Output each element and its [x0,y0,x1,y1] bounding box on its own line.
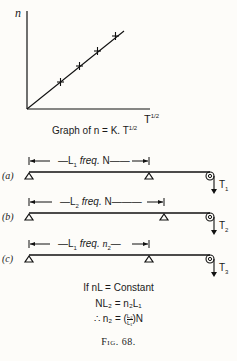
case-b-dimension-label: —L2 freq. N——— [60,196,142,209]
case-b-tag: (b) [2,211,14,222]
case-c-tag: (c) [2,253,13,264]
case-a-tag: (a) [2,170,14,181]
tension-t1-label: T1 [219,179,228,192]
equation-1: If nL = Constant [0,282,237,293]
case-c-dimension-label: —L1 freq. n2— [58,238,121,251]
equation-2: NL₂ = n₂L₁ [0,298,237,309]
tension-t2-label: T2 [219,220,228,233]
y-axis-label: n [15,6,21,21]
x-axis-label: T1/2 [144,113,159,125]
equation-3: ∴ n₂ = (L₂L₁)N [0,313,237,326]
figure-label: Fig. 68. [0,336,237,347]
tension-t3-label: T3 [219,262,228,275]
case-a-dimension-label: —L1 freq. N—— [58,155,130,168]
graph-caption: Graph of n = K. T1/2 [52,125,137,136]
